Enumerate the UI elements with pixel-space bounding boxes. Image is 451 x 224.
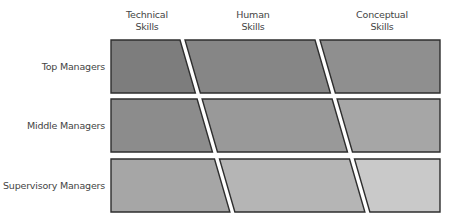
cell-middle-human [202, 99, 347, 152]
cell-supervisory-conceptual [355, 159, 440, 212]
cell-top-human [185, 40, 330, 93]
cell-supervisory-technical [111, 159, 230, 212]
cell-top-technical [111, 40, 195, 93]
cell-middle-technical [111, 99, 212, 152]
cell-supervisory-human [220, 159, 365, 212]
skills-grid [0, 0, 451, 224]
cell-middle-conceptual [337, 99, 440, 152]
cell-top-conceptual [320, 40, 440, 93]
